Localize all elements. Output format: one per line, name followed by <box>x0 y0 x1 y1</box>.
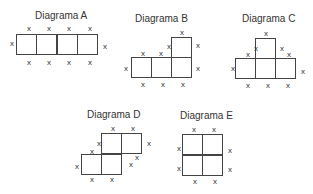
x-mark: x <box>252 45 260 53</box>
x-mark: x <box>284 82 292 90</box>
x-mark: x <box>139 50 147 58</box>
x-mark: x <box>8 40 16 48</box>
x-mark: x <box>175 165 183 173</box>
x-mark: x <box>178 29 186 37</box>
square-cell <box>57 34 78 55</box>
x-mark: x <box>229 65 237 73</box>
x-mark: x <box>127 161 135 169</box>
x-mark: x <box>262 30 270 38</box>
square-cell <box>101 133 122 154</box>
x-mark: x <box>194 65 202 73</box>
square-cell <box>131 57 152 78</box>
x-mark: x <box>191 178 199 186</box>
square-cell <box>77 34 98 55</box>
diagram-title: Diagrama B <box>135 13 188 24</box>
x-mark: x <box>109 125 117 133</box>
x-mark: x <box>88 148 96 156</box>
square-cell <box>235 58 256 79</box>
square-cell <box>182 134 203 155</box>
x-mark: x <box>157 50 165 58</box>
x-mark: x <box>285 51 293 59</box>
x-mark: x <box>139 81 147 89</box>
x-mark: x <box>73 163 81 171</box>
x-mark: x <box>244 51 252 59</box>
x-mark: x <box>211 178 219 186</box>
square-cell <box>101 154 122 175</box>
square-cell <box>151 57 172 78</box>
x-mark: x <box>145 140 153 148</box>
diagram-title: Diagrama C <box>242 13 295 24</box>
x-mark: x <box>108 176 116 184</box>
x-mark: x <box>45 59 53 67</box>
square-cell <box>182 155 203 176</box>
square-cell <box>16 34 37 55</box>
x-mark: x <box>244 82 252 90</box>
x-mark: x <box>299 68 307 76</box>
x-mark: x <box>86 25 94 33</box>
x-mark: x <box>45 25 53 33</box>
x-mark: x <box>25 59 33 67</box>
x-mark: x <box>95 140 103 148</box>
x-mark: x <box>226 166 234 174</box>
x-mark: x <box>88 176 96 184</box>
x-mark: x <box>65 59 73 67</box>
diagram-title: Diagrama A <box>35 10 87 21</box>
x-mark: x <box>101 43 109 51</box>
x-mark: x <box>194 42 202 50</box>
x-mark: x <box>165 43 173 51</box>
x-mark: x <box>264 82 272 90</box>
square-cell <box>121 133 142 154</box>
square-cell <box>81 154 102 175</box>
diagram-title: Diagrama D <box>87 109 140 120</box>
square-cell <box>202 134 223 155</box>
x-mark: x <box>179 81 187 89</box>
square-cell <box>275 58 296 79</box>
x-mark: x <box>226 147 234 155</box>
square-cell <box>171 37 192 58</box>
square-cell <box>171 57 192 78</box>
x-mark: x <box>159 81 167 89</box>
x-mark: x <box>210 126 218 134</box>
x-mark: x <box>86 59 94 67</box>
x-mark: x <box>175 145 183 153</box>
diagram-title: Diagrama E <box>180 110 233 121</box>
square-cell <box>36 34 57 55</box>
square-cell <box>255 58 276 79</box>
x-mark: x <box>65 25 73 33</box>
x-mark: x <box>122 65 130 73</box>
square-cell <box>202 155 223 176</box>
x-mark: x <box>129 125 137 133</box>
x-mark: x <box>190 126 198 134</box>
x-mark: x <box>25 25 33 33</box>
